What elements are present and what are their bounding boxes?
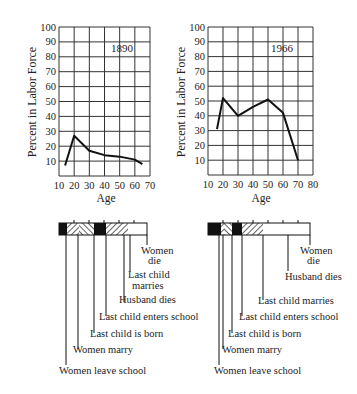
year-label-1966: 1966 — [271, 42, 294, 54]
label-last-child-born-1966: Last child is born — [228, 328, 302, 339]
label-women-die-1890-b: die — [148, 255, 161, 266]
y-tick-label: 80 — [195, 51, 206, 62]
y-tick-label: 30 — [195, 125, 206, 136]
x-tick-label: 20 — [218, 179, 229, 190]
y-tick-label: 100 — [189, 22, 205, 33]
label-husband-dies-1966: Husband dies — [285, 271, 342, 282]
y-tick-label: 40 — [195, 110, 206, 121]
y-axis-label-1966: Percent in Labor Force — [174, 47, 188, 157]
x-tick-label: 30 — [84, 180, 95, 191]
y-tick-label: 70 — [195, 66, 206, 77]
line-series-1966 — [217, 98, 298, 160]
x-tick-label: 60 — [130, 180, 141, 191]
y-tick-label: 10 — [195, 155, 206, 166]
label-last-child-enters-school-1890: Last child enters school — [99, 311, 199, 322]
y-tick-label: 60 — [46, 81, 57, 92]
timeline-1966: Women die Husband dies Last child marrie… — [208, 220, 342, 376]
label-women-leave-school-1966: Women leave school — [214, 365, 301, 376]
x-tick-label: 50 — [114, 180, 125, 191]
x-tick-label: 70 — [293, 179, 304, 190]
label-women-leave-school-1890: Women leave school — [59, 365, 146, 376]
figure: 10203040506070809010010203040506070 Perc… — [0, 0, 357, 394]
label-women-marry-1890: Women marry — [73, 344, 134, 355]
y-tick-label: 20 — [46, 141, 57, 152]
x-tick-label: 40 — [99, 180, 110, 191]
y-tick-label: 40 — [46, 111, 57, 122]
label-last-child-marries-1966: Last child marries — [258, 295, 334, 306]
chart-1890: 10203040506070809010010203040506070 Perc… — [25, 22, 155, 206]
x-tick-label: 80 — [308, 179, 319, 190]
y-tick-label: 20 — [195, 140, 206, 151]
y-tick-label: 100 — [40, 22, 56, 33]
y-tick-label: 70 — [46, 66, 57, 77]
x-tick-label: 10 — [54, 180, 65, 191]
x-tick-label: 30 — [233, 179, 244, 190]
label-last-child-marries-1890-b: marries — [132, 280, 164, 291]
label-last-child-marries-1890-a: Last child — [128, 269, 170, 280]
chart-1966: 1020304050607080901001020304050607080 Pe… — [174, 22, 318, 206]
x-axis-label-1890: Age — [96, 192, 115, 205]
grid-1890: 10203040506070809010010203040506070 — [40, 22, 155, 192]
y-tick-label: 50 — [46, 96, 57, 107]
label-women-die-1966-b: die — [307, 255, 320, 266]
label-last-child-born-1890: Last child is born — [90, 328, 164, 339]
y-tick-label: 30 — [46, 126, 57, 137]
y-tick-label: 50 — [195, 96, 206, 107]
label-last-child-enters-school-1966: Last child enters school — [239, 311, 339, 322]
y-tick-label: 80 — [46, 51, 57, 62]
year-label-1890: 1890 — [111, 42, 134, 54]
x-tick-label: 40 — [248, 179, 259, 190]
x-tick-label: 50 — [263, 179, 274, 190]
y-tick-label: 60 — [195, 81, 206, 92]
x-axis-label-1966: Age — [251, 192, 270, 205]
label-women-marry-1966: Women marry — [222, 344, 283, 355]
y-axis-label-1890: Percent in Labor Force — [25, 47, 39, 157]
label-husband-dies-1890: Husband dies — [119, 294, 176, 305]
y-tick-label: 90 — [46, 36, 57, 47]
y-tick-label: 10 — [46, 156, 57, 167]
timeline-1890: Women die Last child marries Husband die… — [59, 220, 199, 376]
y-tick-label: 90 — [195, 36, 206, 47]
x-tick-label: 70 — [145, 180, 156, 191]
x-tick-label: 60 — [278, 179, 289, 190]
x-tick-label: 10 — [203, 179, 214, 190]
x-tick-label: 20 — [69, 180, 80, 191]
